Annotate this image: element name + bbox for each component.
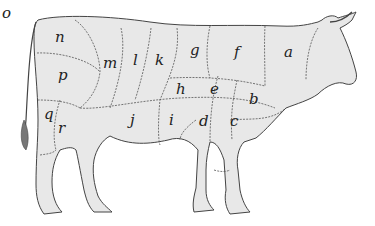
label-e: e bbox=[210, 80, 219, 98]
label-n: n bbox=[55, 28, 65, 46]
label-r: r bbox=[58, 119, 66, 137]
label-m: m bbox=[103, 54, 117, 72]
label-c: c bbox=[230, 112, 239, 130]
label-o: o bbox=[2, 4, 11, 22]
label-q: q bbox=[44, 105, 54, 123]
label-l: l bbox=[133, 51, 138, 69]
label-k: k bbox=[155, 51, 164, 69]
label-p: p bbox=[58, 66, 68, 84]
label-a: a bbox=[284, 43, 293, 61]
label-g: g bbox=[190, 41, 200, 59]
label-i: i bbox=[169, 111, 174, 129]
cow-diagram: o n p m l k g f a h e b q r j i d c bbox=[0, 0, 375, 226]
label-d: d bbox=[199, 112, 209, 130]
label-h: h bbox=[176, 80, 186, 98]
label-b: b bbox=[249, 90, 259, 108]
tail-switch bbox=[21, 120, 28, 150]
